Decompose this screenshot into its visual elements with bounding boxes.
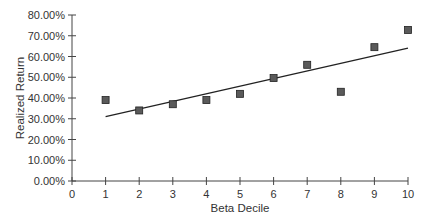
x-tick-label: 2 [136,188,142,200]
trend-line-path [106,48,408,116]
square-marker [371,44,378,51]
y-tick-label: 40.00% [28,92,66,104]
scatter-chart: 0.00%10.00%20.00%30.00%40.00%50.00%60.00… [0,0,424,223]
x-tick-label: 0 [69,188,75,200]
square-marker [304,61,311,68]
square-marker [102,97,109,104]
y-tick-label: 30.00% [28,113,66,125]
x-tick-label: 3 [170,188,176,200]
square-marker [203,97,210,104]
x-tick-label: 6 [271,188,277,200]
x-tick-label: 8 [338,188,344,200]
square-marker [405,26,412,33]
y-tick-label: 50.00% [28,71,66,83]
square-marker [270,75,277,82]
x-axis: 012345678910 [69,177,414,200]
trend-line [106,48,408,116]
square-marker [136,107,143,114]
y-axis-title: Realized Return [14,57,26,139]
x-tick-label: 5 [237,188,243,200]
square-marker [237,90,244,97]
x-tick-label: 10 [402,188,414,200]
x-tick-label: 4 [203,188,209,200]
square-marker [337,88,344,95]
y-tick-label: 70.00% [28,30,66,42]
square-marker [169,101,176,108]
y-tick-label: 20.00% [28,134,66,146]
data-points [102,26,411,114]
y-axis: 0.00%10.00%20.00%30.00%40.00%50.00%60.00… [28,9,76,187]
x-tick-label: 9 [371,188,377,200]
y-tick-label: 60.00% [28,51,66,63]
y-tick-label: 80.00% [28,9,66,21]
x-tick-label: 1 [103,188,109,200]
x-axis-title: Beta Decile [211,202,270,214]
x-tick-label: 7 [304,188,310,200]
y-tick-label: 10.00% [28,154,66,166]
y-tick-label: 0.00% [34,175,65,187]
